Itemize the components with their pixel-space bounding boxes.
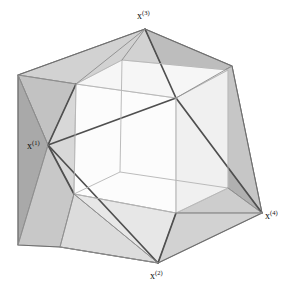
figure-container: x(1) x(2) x(3) x(4) — [0, 0, 292, 294]
label-x3: x(3) — [137, 9, 150, 21]
stellated-cube-diagram: x(1) x(2) x(3) x(4) — [0, 0, 292, 294]
label-x2: x(2) — [150, 269, 163, 281]
label-x4: x(4) — [265, 209, 278, 221]
